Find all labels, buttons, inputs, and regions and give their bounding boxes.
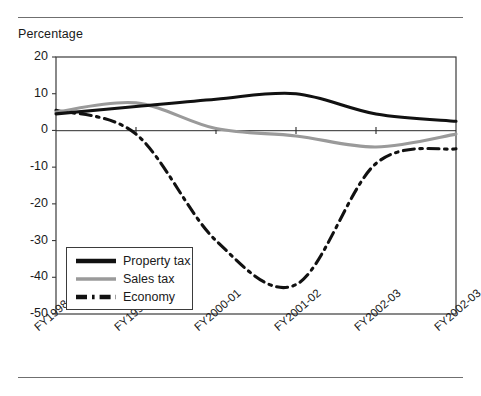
y-tick-label: -10 <box>14 159 48 173</box>
y-tick-label: -30 <box>14 233 48 247</box>
legend-label-sales-tax: Sales tax <box>123 273 174 286</box>
legend-swatch-sales-tax <box>75 273 117 285</box>
chart-legend: Property tax Sales tax Economy <box>66 247 193 310</box>
y-tick-label: -40 <box>14 269 48 283</box>
chart-figure: Percentage 20100-10-20-30-40-50 FY1998-9… <box>0 0 481 396</box>
legend-item-sales-tax: Sales tax <box>75 270 174 288</box>
y-tick-label: 20 <box>14 49 48 63</box>
series-line-property-tax <box>56 93 456 121</box>
y-tick-label: -20 <box>14 196 48 210</box>
y-tick-label: 10 <box>14 86 48 100</box>
legend-label-economy: Economy <box>123 291 175 304</box>
legend-label-property-tax: Property tax <box>123 255 190 268</box>
legend-swatch-economy <box>75 291 117 303</box>
y-tick-label: 0 <box>14 122 48 136</box>
legend-swatch-property-tax <box>75 255 117 267</box>
legend-item-property-tax: Property tax <box>75 252 190 270</box>
legend-item-economy: Economy <box>75 288 175 306</box>
plot-area <box>0 0 481 396</box>
